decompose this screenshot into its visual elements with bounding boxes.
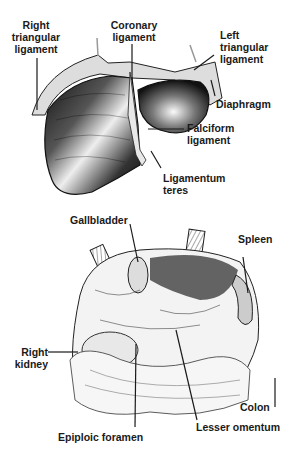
liver-drawing	[32, 38, 222, 194]
viscera-drawing	[70, 229, 259, 414]
label-ligamentum-teres: Ligamentum teres	[163, 172, 225, 196]
label-right-triangular-ligament: Right triangular ligament	[10, 19, 62, 55]
label-diaphragm: Diaphragm	[216, 98, 271, 110]
label-gallbladder: Gallbladder	[70, 214, 128, 226]
label-left-triangular-ligament: Left triangular ligament	[220, 29, 268, 65]
label-colon: Colon	[240, 401, 270, 413]
label-right-kidney: Right kidney	[8, 346, 48, 370]
label-spleen: Spleen	[238, 233, 272, 245]
label-coronary-ligament: Coronary ligament	[108, 19, 160, 43]
anatomical-illustration	[0, 0, 288, 458]
label-lesser-omentum: Lesser omentum	[196, 421, 280, 433]
label-falciform-ligament: Falciform ligament	[187, 122, 234, 146]
label-epiploic-foramen: Epiploic foramen	[58, 431, 143, 443]
